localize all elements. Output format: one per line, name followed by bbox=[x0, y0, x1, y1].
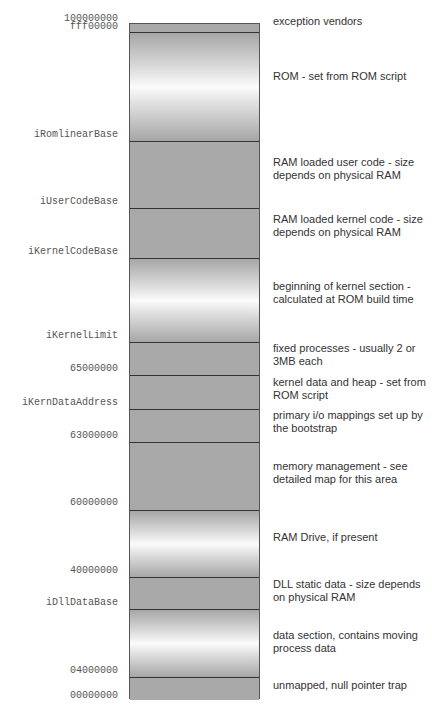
region-description: ROM - set from ROM script bbox=[273, 70, 431, 83]
memory-region bbox=[130, 141, 259, 208]
address-label: 04000000 bbox=[0, 666, 118, 676]
region-description: data section, contains moving process da… bbox=[273, 629, 431, 655]
region-description: kernel data and heap - set from ROM scri… bbox=[273, 376, 431, 402]
memory-region bbox=[130, 24, 259, 32]
region-description: unmapped, null pointer trap bbox=[273, 679, 431, 692]
memory-region bbox=[130, 577, 259, 609]
memory-region bbox=[130, 442, 259, 510]
address-label: 65000000 bbox=[0, 364, 118, 374]
memory-region bbox=[130, 342, 259, 375]
address-label: iDllDataBase bbox=[0, 598, 118, 608]
region-description: RAM loaded kernel code - size depends on… bbox=[273, 213, 431, 239]
region-description: RAM Drive, if present bbox=[273, 531, 431, 544]
memory-region bbox=[130, 258, 259, 342]
memory-bar bbox=[129, 23, 260, 699]
region-description: RAM loaded user code - size depends on p… bbox=[273, 156, 431, 182]
address-label: iKernDataAddress bbox=[0, 398, 118, 408]
memory-region bbox=[130, 409, 259, 442]
address-label: iUserCodeBase bbox=[0, 197, 118, 207]
region-description: primary i/o mappings set up by the boots… bbox=[273, 409, 431, 435]
address-label: fff00000 bbox=[0, 22, 118, 32]
address-label: iKernelLimit bbox=[0, 331, 118, 341]
region-description: memory management - see detailed map for… bbox=[273, 460, 431, 486]
memory-region bbox=[130, 375, 259, 409]
region-description: exception vendors bbox=[273, 15, 431, 28]
region-description: DLL static data - size depends on physic… bbox=[273, 578, 431, 604]
address-label: iRomlinearBase bbox=[0, 130, 118, 140]
address-label: 40000000 bbox=[0, 566, 118, 576]
region-description: beginning of kernel section - calculated… bbox=[273, 280, 431, 306]
address-label: iKernelCodeBase bbox=[0, 247, 118, 257]
region-description: fixed processes - usually 2 or 3MB each bbox=[273, 342, 431, 368]
memory-region bbox=[130, 677, 259, 700]
memory-region bbox=[130, 609, 259, 677]
memory-region bbox=[130, 32, 259, 141]
memory-region bbox=[130, 208, 259, 258]
address-label: 63000000 bbox=[0, 431, 118, 441]
memory-region bbox=[130, 510, 259, 577]
address-label: 00000000 bbox=[0, 691, 118, 701]
address-label: 60000000 bbox=[0, 498, 118, 508]
